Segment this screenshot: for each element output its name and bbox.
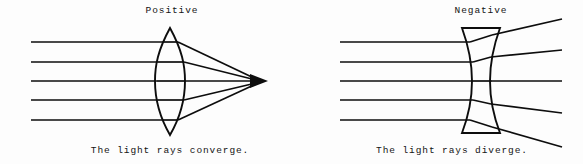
converging-ray-4	[184, 83, 256, 100]
positive-lens-caption: The light rays converge.	[91, 145, 249, 156]
focal-point-arrowhead	[250, 74, 268, 88]
internal-ray-6	[470, 35, 492, 42]
negative-internal-rays	[470, 35, 492, 127]
diverging-ray-1	[492, 19, 562, 35]
negative-diverging-rays	[491, 19, 562, 147]
internal-ray-10	[470, 120, 492, 127]
internal-ray-9	[473, 100, 491, 104]
positive-incoming-rays	[31, 42, 163, 120]
diverging-ray-2	[491, 50, 562, 57]
positive-lens-panel: Positive	[31, 5, 268, 156]
converging-ray-5	[178, 84, 256, 120]
positive-lens-title: Positive	[146, 5, 199, 16]
negative-lens-caption: The light rays diverge.	[376, 145, 528, 156]
internal-ray-7	[473, 57, 491, 62]
optics-diagram-canvas: Positive	[0, 0, 583, 164]
diverging-ray-5	[492, 127, 562, 147]
negative-incoming-rays	[340, 42, 473, 120]
lens-diagram-figure: Positive	[0, 0, 583, 164]
positive-converging-rays	[178, 42, 258, 120]
negative-lens-panel: Negative	[340, 5, 562, 156]
converging-ray-1	[178, 42, 256, 79]
diverging-ray-4	[491, 104, 562, 113]
negative-lens-title: Negative	[455, 5, 508, 16]
converging-ray-2	[184, 62, 256, 80]
